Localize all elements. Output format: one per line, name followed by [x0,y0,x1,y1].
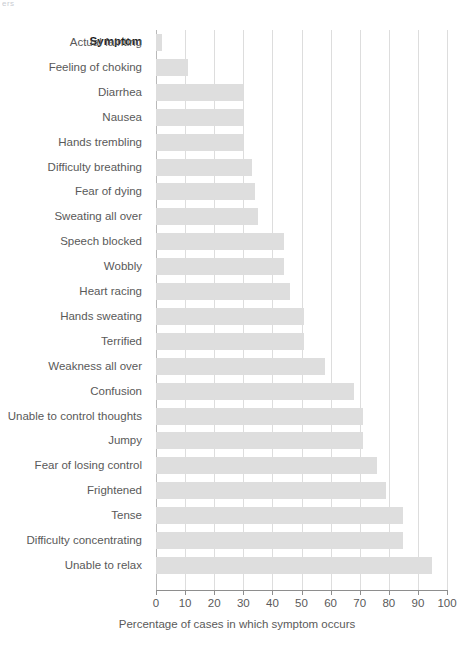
category-label: Sweating all over [54,204,142,229]
bar-row [156,478,447,503]
category-label: Jumpy [108,428,142,453]
x-tick-40 [272,590,273,595]
bar-row [156,80,447,105]
x-tick-label: 100 [437,597,456,609]
x-tick-100 [447,590,448,595]
bar [156,34,162,51]
category-label: Confusion [90,379,142,404]
bar [156,408,363,425]
x-tick-label: 50 [295,597,308,609]
bar-row [156,453,447,478]
x-tick-label: 70 [353,597,366,609]
bar-row [156,503,447,528]
bar [156,233,284,250]
category-label: Frightened [87,478,142,503]
bar-row [156,304,447,329]
bar [156,532,403,549]
x-tick-label: 20 [208,597,221,609]
bar-row [156,229,447,254]
category-label: Hands trembling [58,130,142,155]
horizontal-bar-chart: Symptom Actual faintingFeeling of chokin… [0,0,474,656]
category-label: Diarrhea [98,80,142,105]
category-label: Wobbly [104,254,142,279]
bar [156,159,252,176]
x-tick-90 [418,590,419,595]
x-tick-label: 40 [266,597,279,609]
gridline-100 [447,30,448,590]
bar [156,109,243,126]
x-axis-title: Percentage of cases in which symptom occ… [0,618,474,630]
bar-row [156,155,447,180]
bar [156,283,290,300]
bar-row [156,30,447,55]
bar [156,84,243,101]
bar [156,258,284,275]
bar-row [156,55,447,80]
bar [156,183,255,200]
bar [156,457,377,474]
bar [156,482,386,499]
x-tick-label: 0 [153,597,159,609]
bar-row [156,379,447,404]
bar-row [156,428,447,453]
x-tick-0 [156,590,157,595]
category-label: Unable to relax [65,553,142,578]
bar [156,308,304,325]
x-tick-label: 90 [411,597,424,609]
bar-row [156,279,447,304]
x-tick-70 [360,590,361,595]
bar-row [156,329,447,354]
category-label: Unable to control thoughts [8,404,142,429]
category-label: Tense [111,503,142,528]
x-tick-label: 30 [237,597,250,609]
x-tick-30 [243,590,244,595]
category-label-column: Symptom Actual faintingFeeling of chokin… [0,30,150,590]
x-tick-80 [389,590,390,595]
category-label: Actual fainting [70,30,142,55]
x-tick-label: 80 [382,597,395,609]
bar-row [156,354,447,379]
category-label: Fear of dying [75,179,142,204]
x-tick-10 [185,590,186,595]
bar [156,208,258,225]
bar-row [156,105,447,130]
category-label: Speech blocked [60,229,142,254]
plot-area [156,30,447,590]
category-label: Feeling of choking [49,55,142,80]
bar-row [156,254,447,279]
x-tick-label: 60 [324,597,337,609]
x-tick-50 [302,590,303,595]
x-tick-60 [331,590,332,595]
category-label: Hands sweating [60,304,142,329]
bar [156,432,363,449]
category-label: Difficulty breathing [48,155,142,180]
bar [156,383,354,400]
bar [156,134,243,151]
bar [156,333,304,350]
bar [156,59,188,76]
bar-row [156,528,447,553]
category-label: Fear of losing control [35,453,142,478]
category-label: Nausea [102,105,142,130]
category-label: Difficulty concentrating [27,528,142,553]
bar-row [156,179,447,204]
x-tick-20 [214,590,215,595]
x-tick-label: 10 [179,597,192,609]
bar-row [156,130,447,155]
bar-row [156,204,447,229]
bar-row [156,404,447,429]
category-label: Heart racing [79,279,142,304]
category-label: Terrified [101,329,142,354]
bar [156,557,432,574]
bar [156,358,325,375]
category-label: Weakness all over [48,354,142,379]
bar [156,507,403,524]
bar-row [156,553,447,578]
